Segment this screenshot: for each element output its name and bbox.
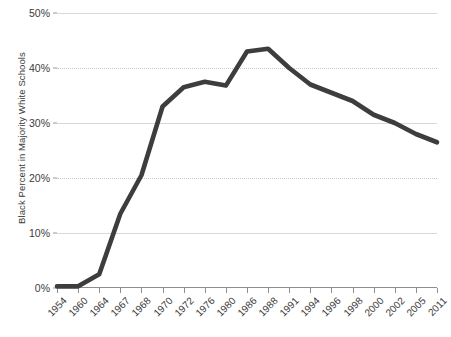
x-tick-mark <box>437 288 438 293</box>
x-tick-label: 1998 <box>341 295 365 319</box>
y-tick-label: 0% <box>35 282 50 294</box>
x-tick-label: 1994 <box>299 295 323 319</box>
y-tick-label: 30% <box>29 117 50 129</box>
x-tick-mark <box>120 288 121 293</box>
x-tick-mark <box>310 288 311 293</box>
x-tick-label: 1960 <box>66 295 90 319</box>
x-tick-label: 2000 <box>362 295 386 319</box>
x-tick-label: 2005 <box>404 295 428 319</box>
line-chart: Black Percent in Majority White Schools … <box>0 0 451 337</box>
x-tick-label: 1980 <box>214 295 238 319</box>
x-tick-label: 1986 <box>235 295 259 319</box>
x-tick-mark <box>289 288 290 293</box>
x-tick-label: 1967 <box>109 295 133 319</box>
x-tick-label: 1954 <box>45 295 69 319</box>
x-tick-mark <box>374 288 375 293</box>
data-series-line <box>57 13 437 288</box>
x-tick-mark <box>78 288 79 293</box>
x-tick-label: 1991 <box>277 295 301 319</box>
x-tick-label: 1976 <box>193 295 217 319</box>
x-tick-label: 1972 <box>172 295 196 319</box>
x-tick-mark <box>99 288 100 293</box>
x-tick-mark <box>141 288 142 293</box>
x-tick-mark <box>226 288 227 293</box>
x-tick-label: 2011 <box>426 295 449 318</box>
y-tick-label: 20% <box>29 172 50 184</box>
x-tick-mark <box>163 288 164 293</box>
y-tick-label: 50% <box>29 7 50 19</box>
x-tick-mark <box>353 288 354 293</box>
x-tick-label: 1996 <box>320 295 344 319</box>
x-tick-mark <box>395 288 396 293</box>
x-tick-label: 1970 <box>151 295 175 319</box>
plot-area: 0%10%20%30%40%50% 1954196019641967196819… <box>57 13 437 288</box>
x-tick-label: 2002 <box>383 295 407 319</box>
x-tick-mark <box>205 288 206 293</box>
x-tick-label: 1968 <box>130 295 154 319</box>
y-tick-label: 40% <box>29 62 50 74</box>
x-tick-mark <box>247 288 248 293</box>
x-tick-mark <box>331 288 332 293</box>
x-tick-mark <box>416 288 417 293</box>
x-tick-mark <box>184 288 185 293</box>
y-tick-label: 10% <box>29 227 50 239</box>
x-tick-mark <box>57 288 58 293</box>
x-tick-mark <box>268 288 269 293</box>
y-axis-title: Black Percent in Majority White Schools <box>14 0 30 288</box>
x-tick-label: 1988 <box>256 295 280 319</box>
x-tick-label: 1964 <box>87 295 111 319</box>
